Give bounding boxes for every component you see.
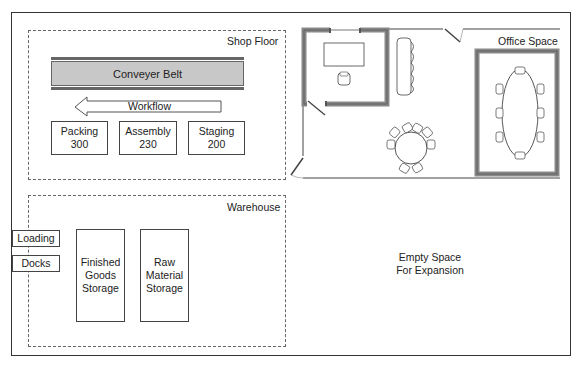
- sofa-icon: [397, 38, 414, 95]
- raw-material-storage[interactable]: Raw Material Storage: [140, 229, 189, 322]
- warehouse-label: Warehouse: [227, 201, 280, 213]
- finished-goods-storage[interactable]: Finished Goods Storage: [76, 229, 125, 322]
- conference-room: [477, 51, 557, 174]
- expansion-area-label: Empty Space For Expansion: [380, 251, 480, 277]
- loading-dock-1[interactable]: Loading: [12, 230, 60, 247]
- entrance-door-icon: [291, 158, 303, 178]
- loading-dock-2[interactable]: Docks: [12, 255, 60, 272]
- round-table-icon: [387, 122, 435, 174]
- top-door-icon: [445, 29, 463, 42]
- private-office-room: [304, 27, 387, 115]
- office-space-label: Office Space: [498, 35, 558, 47]
